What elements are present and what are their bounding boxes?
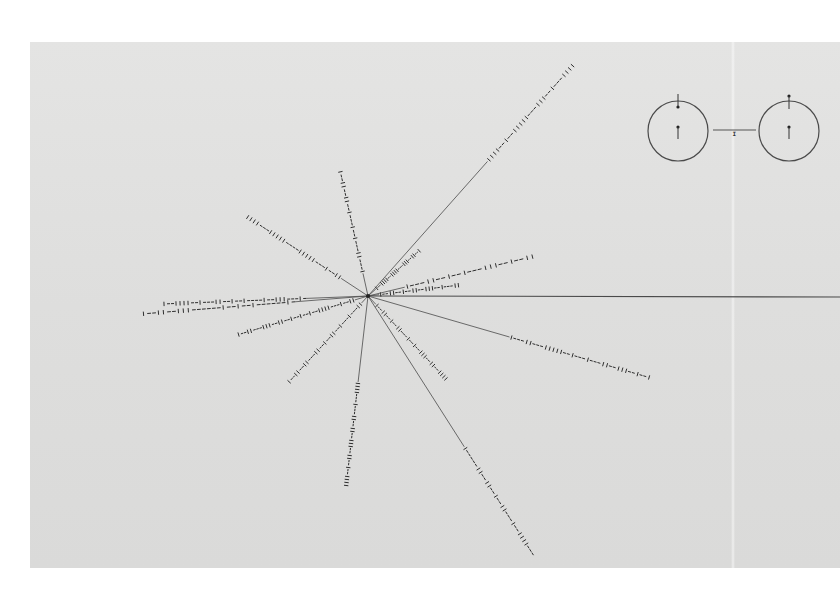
hydrogen-hyperfine-diagram: I (648, 94, 819, 161)
galactic-center-line (368, 296, 840, 297)
pulsar-line-sw-1 (238, 296, 368, 337)
pulsar-line-ese (368, 296, 650, 380)
pulsar-rays (143, 64, 840, 555)
pulsar-line-se-1 (368, 296, 448, 380)
pulsar-line-sw-2 (287, 296, 368, 383)
sun-origin-dot (366, 294, 370, 298)
pulsar-map-diagram: I (0, 0, 840, 594)
pulsar-line-n-1 (338, 171, 368, 296)
unit-tick-label: I (733, 130, 737, 137)
pulsar-line-s-1 (344, 296, 368, 486)
pulsar-line-ne-long (368, 64, 574, 296)
pulsar-line-nw-1 (246, 215, 368, 296)
pulsar-line-se-long (368, 296, 533, 555)
